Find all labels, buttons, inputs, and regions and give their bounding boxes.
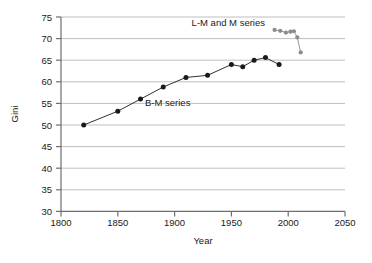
y-tick-label-50: 50 xyxy=(41,120,52,131)
bm-series-annotation: B-M series xyxy=(145,97,191,108)
y-tick-label-40: 40 xyxy=(41,163,52,174)
data-point xyxy=(278,29,282,33)
data-point xyxy=(183,75,188,80)
data-point xyxy=(115,109,120,114)
data-point xyxy=(240,64,245,69)
data-point xyxy=(229,62,234,67)
data-point xyxy=(284,30,288,34)
data-point xyxy=(299,50,303,54)
x-tick-label-1800: 1800 xyxy=(50,217,71,228)
y-tick-label-60: 60 xyxy=(41,76,52,87)
x-tick-label-1850: 1850 xyxy=(107,217,128,228)
y-tick-label-65: 65 xyxy=(41,55,52,66)
y-tick-label-70: 70 xyxy=(41,33,52,44)
x-tick-label-1950: 1950 xyxy=(221,217,242,228)
x-tick-label-2000: 2000 xyxy=(278,217,299,228)
data-point xyxy=(292,29,296,33)
x-tick-label-1900: 1900 xyxy=(164,217,185,228)
data-point xyxy=(161,84,166,89)
y-tick-label-75: 75 xyxy=(41,12,52,23)
chart-figure: 75 70 65 60 55 50 45 40 35 30 1800 1850 … xyxy=(0,0,372,263)
data-point xyxy=(205,73,210,78)
lm-series-annotation: L-M and M series xyxy=(192,17,266,28)
y-axis-title: Gini xyxy=(9,106,20,123)
data-point xyxy=(81,123,86,128)
data-point xyxy=(272,28,276,32)
y-tick-label-55: 55 xyxy=(41,98,52,109)
y-tick-label-45: 45 xyxy=(41,141,52,152)
gini-line-chart: 75 70 65 60 55 50 45 40 35 30 1800 1850 … xyxy=(0,0,372,263)
data-point xyxy=(138,97,143,102)
x-tick-label-2050: 2050 xyxy=(334,217,355,228)
data-point xyxy=(252,58,257,63)
data-point xyxy=(263,55,268,60)
x-axis-title: Year xyxy=(193,235,212,246)
y-tick-label-35: 35 xyxy=(41,184,52,195)
data-point xyxy=(295,35,299,39)
y-tick-label-30: 30 xyxy=(41,206,52,217)
data-point xyxy=(277,62,282,67)
